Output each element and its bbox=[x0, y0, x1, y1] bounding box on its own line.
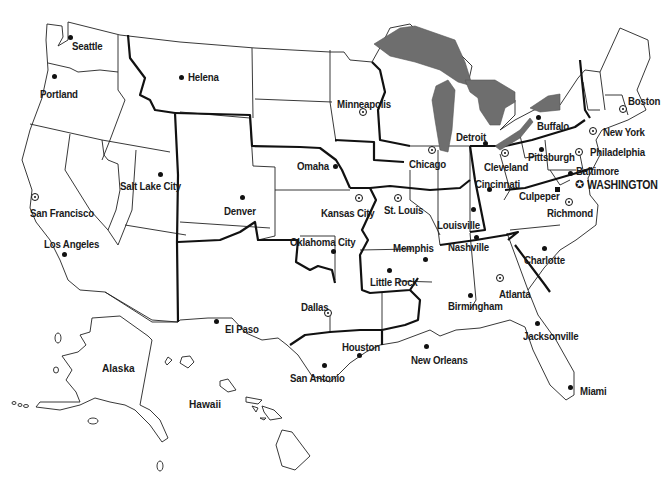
region-label-hawaii: Hawaii bbox=[189, 398, 221, 410]
city-label-helena: Helena bbox=[188, 71, 219, 83]
city-label-dallas: Dallas bbox=[301, 301, 328, 313]
city-dot-icon bbox=[52, 74, 57, 79]
alaska-island bbox=[157, 461, 163, 471]
city-dot-icon bbox=[542, 246, 547, 251]
major-city-marker-icon bbox=[496, 274, 504, 282]
city-dot-icon bbox=[158, 172, 163, 177]
major-city-marker-icon bbox=[575, 148, 583, 156]
city-label-st-louis: St. Louis bbox=[384, 204, 423, 216]
city-label-charlotte: Charlotte bbox=[524, 254, 565, 266]
city-label-san-francisco: San Francisco bbox=[30, 207, 94, 219]
aleutian-island bbox=[18, 404, 22, 407]
capital-star-icon: ✪ bbox=[575, 179, 584, 190]
city-dot-icon bbox=[471, 207, 476, 212]
city-label-portland: Portland bbox=[40, 88, 78, 100]
city-label-jacksonville: Jacksonville bbox=[523, 330, 578, 342]
city-dot-icon bbox=[474, 235, 479, 240]
city-dot-icon bbox=[322, 363, 327, 368]
city-dot-icon bbox=[424, 344, 429, 349]
aleutian-island bbox=[12, 402, 16, 405]
city-label-pittsburgh: Pittsburgh bbox=[528, 151, 575, 163]
aleutian-island bbox=[24, 405, 29, 408]
city-dot-icon bbox=[62, 252, 67, 257]
major-city-marker-icon bbox=[589, 127, 597, 135]
city-label-san-antonio: San Antonio bbox=[290, 372, 345, 384]
major-city-marker-icon bbox=[428, 146, 436, 154]
city-dot-icon bbox=[423, 257, 428, 262]
city-label-cincinnati: Cincinnati bbox=[475, 178, 520, 190]
city-label-richmond: Richmond bbox=[547, 207, 593, 219]
city-label-baltimore: Baltimore bbox=[576, 165, 619, 177]
city-label-detroit: Detroit bbox=[456, 131, 486, 143]
alaska-island bbox=[88, 418, 98, 424]
major-city-marker-icon bbox=[355, 194, 363, 202]
city-dot-icon bbox=[68, 35, 73, 40]
city-label-cleveland: Cleveland bbox=[484, 161, 528, 173]
city-label-little-rock: Little Rock bbox=[370, 276, 418, 288]
city-label-miami: Miami bbox=[580, 385, 607, 397]
city-label-el-paso: El Paso bbox=[225, 323, 259, 335]
city-dot-icon bbox=[568, 171, 573, 176]
city-label-new-york: New York bbox=[603, 126, 645, 138]
major-city-marker-icon bbox=[394, 194, 402, 202]
city-label-los-angeles: Los Angeles bbox=[44, 238, 99, 250]
city-label-oklahoma-city: Oklahoma City bbox=[290, 236, 355, 248]
city-label-buffalo: Buffalo bbox=[537, 120, 569, 132]
city-dot-icon bbox=[387, 268, 392, 273]
city-label-denver: Denver bbox=[224, 205, 256, 217]
city-label-atlanta: Atlanta bbox=[499, 288, 531, 300]
city-label-memphis: Memphis bbox=[393, 242, 434, 254]
major-city-marker-icon bbox=[31, 193, 39, 201]
city-dot-icon bbox=[535, 321, 540, 326]
city-dot-icon bbox=[331, 249, 336, 254]
city-label-seattle: Seattle bbox=[72, 40, 103, 52]
city-dot-icon bbox=[568, 385, 573, 390]
city-label-minneapolis: Minneapolis bbox=[337, 98, 391, 110]
city-label-boston: Boston bbox=[628, 95, 660, 107]
major-city-marker-icon bbox=[565, 198, 573, 206]
city-dot-icon bbox=[468, 293, 473, 298]
city-dot-icon bbox=[240, 195, 245, 200]
city-label-nashville: Nashville bbox=[448, 241, 489, 253]
city-dot-icon bbox=[179, 75, 184, 80]
city-label-chicago: Chicago bbox=[409, 158, 446, 170]
city-label-omaha: Omaha bbox=[297, 160, 329, 172]
alaska-island bbox=[54, 367, 59, 373]
city-label-birmingham: Birmingham bbox=[448, 300, 503, 312]
city-dot-icon bbox=[357, 353, 362, 358]
city-dot-icon bbox=[214, 319, 219, 324]
city-label-culpeper: Culpeper bbox=[519, 190, 560, 202]
lake-ontario bbox=[530, 94, 560, 112]
alaska-island bbox=[55, 333, 61, 343]
city-label-salt-lake-city: Salt Lake City bbox=[120, 180, 181, 192]
major-city-marker-icon bbox=[619, 105, 627, 113]
city-label-washington: WASHINGTON bbox=[587, 179, 658, 191]
city-dot-icon bbox=[333, 164, 338, 169]
city-label-kansas-city: Kansas City bbox=[321, 207, 374, 219]
city-dot-icon bbox=[536, 115, 541, 120]
region-label-alaska: Alaska bbox=[102, 362, 135, 374]
major-city-marker-icon bbox=[501, 149, 509, 157]
city-label-new-orleans: New Orleans bbox=[411, 354, 468, 366]
hawaii-islands bbox=[165, 356, 310, 470]
city-label-louisville: Louisville bbox=[437, 219, 480, 231]
city-label-philadelphia: Philadelphia bbox=[590, 146, 645, 158]
city-label-houston: Houston bbox=[342, 341, 380, 353]
